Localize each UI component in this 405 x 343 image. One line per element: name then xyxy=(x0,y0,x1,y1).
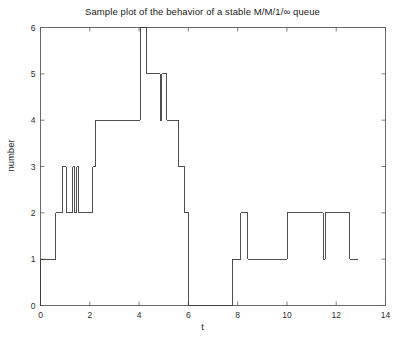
y-axis-ticks xyxy=(41,28,386,306)
svg-text:4: 4 xyxy=(31,115,36,125)
svg-text:12: 12 xyxy=(331,310,341,320)
svg-text:4: 4 xyxy=(137,310,142,320)
svg-text:3: 3 xyxy=(31,162,36,172)
svg-text:0: 0 xyxy=(31,301,36,311)
svg-text:14: 14 xyxy=(381,310,391,320)
queue-length-step-series xyxy=(41,28,358,306)
svg-text:5: 5 xyxy=(31,69,36,79)
figure-container: Sample plot of the behavior of a stable … xyxy=(0,0,405,343)
x-axis-tick-labels: 02468101214 xyxy=(38,310,390,320)
svg-text:10: 10 xyxy=(282,310,292,320)
y-axis-tick-labels: 0123456 xyxy=(31,23,36,311)
x-axis-label: t xyxy=(0,321,405,332)
x-axis-ticks xyxy=(41,28,386,306)
axes-frame xyxy=(41,28,386,306)
svg-text:6: 6 xyxy=(186,310,191,320)
svg-text:8: 8 xyxy=(235,310,240,320)
svg-text:1: 1 xyxy=(31,254,36,264)
svg-text:2: 2 xyxy=(31,208,36,218)
plot-canvas: 02468101214 0123456 xyxy=(0,0,405,343)
y-axis-label: number xyxy=(5,126,16,186)
svg-text:6: 6 xyxy=(31,23,36,33)
svg-text:2: 2 xyxy=(87,310,92,320)
svg-text:0: 0 xyxy=(38,310,43,320)
